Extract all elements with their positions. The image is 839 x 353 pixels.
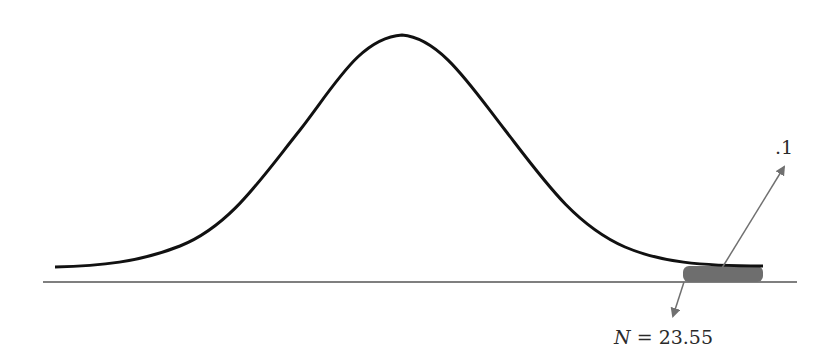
bell-curve bbox=[55, 35, 763, 267]
arrow-to-cutoff bbox=[673, 282, 684, 316]
cutoff-value: 23.55 bbox=[659, 326, 713, 348]
normal-curve-diagram bbox=[0, 0, 839, 353]
tail-probability-label: .1 bbox=[775, 136, 793, 158]
shaded-tail-region bbox=[683, 266, 763, 282]
cutoff-variable: N bbox=[614, 326, 631, 348]
cutoff-label: N = 23.55 bbox=[614, 326, 713, 348]
equals-sign: = bbox=[637, 326, 653, 348]
arrow-to-probability bbox=[722, 167, 784, 268]
